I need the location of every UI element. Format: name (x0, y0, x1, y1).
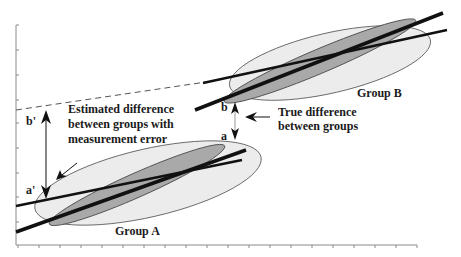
label-b-prime: b' (26, 114, 36, 128)
estimated-difference-label-line2: between groups with (68, 117, 174, 131)
true-difference-label-line2: between groups (278, 119, 358, 133)
group-b-cluster (220, 9, 438, 115)
true-pointer-arrow (245, 112, 270, 122)
label-b: b (221, 100, 228, 114)
true-difference-label-line1: True difference (278, 105, 357, 119)
estimated-difference-label-line3: measurement error (68, 132, 168, 146)
estimated-difference-arrow (41, 110, 51, 199)
true-difference-arrow (231, 102, 239, 140)
label-a-prime: a' (26, 183, 35, 197)
estimated-difference-label-line1: Estimated difference (68, 102, 175, 116)
group-b-label: Group B (357, 86, 402, 100)
group-a-label: Group A (115, 224, 160, 238)
measurement-error-diagram: b' a' b a Estimated difference between g… (0, 0, 461, 257)
label-a: a (221, 129, 227, 143)
